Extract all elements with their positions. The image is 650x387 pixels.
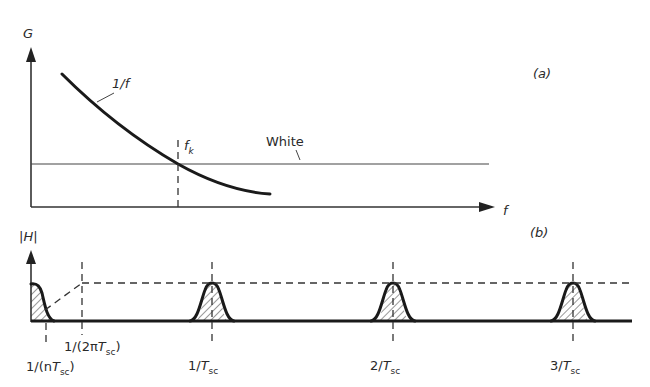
x-axis-label-a: f [503,203,510,218]
white-noise-label: White [266,134,304,149]
panel-a-tag: (a) [533,66,551,81]
tick-label-1-tsc: 1/Tsc [188,358,218,376]
envelope-rise [45,283,82,310]
tick-label-n-tsc: 1/(nTsc) [26,359,75,377]
corner-frequency-label: fk [184,138,195,156]
one-over-f-label: 1/f [112,76,132,91]
arrow-right-icon [479,202,495,212]
one-over-f-curve [62,74,270,194]
white-noise-leader [296,150,300,160]
arrow-up-icon [26,47,36,62]
x-axis-a: f [31,202,510,218]
noise-spectrum-figure: G f White 1/f fk (a) |H| [0,0,650,387]
panel-a: G f White 1/f fk (a) [23,26,551,218]
tick-label-3-tsc: 3/Tsc [550,358,580,376]
panel-b: |H| 1/(2πTsc) [19,225,632,377]
y-axis-a: G [23,26,36,207]
tick-label-2-tsc: 2/Tsc [370,358,400,376]
passband-dc [31,284,54,321]
one-over-f-leader [97,93,114,102]
y-axis-label-b: |H| [19,229,38,244]
arrow-up-icon [26,250,36,264]
figure-caption-cutoff [40,380,640,387]
y-axis-label-a: G [23,26,33,41]
tick-label-2pi-tsc: 1/(2πTsc) [64,339,121,357]
panel-b-tag: (b) [530,225,548,240]
